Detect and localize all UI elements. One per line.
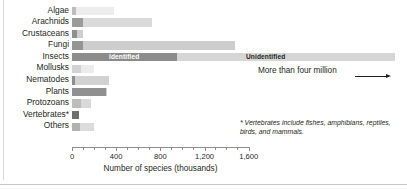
table-row: Plants (0, 86, 407, 98)
table-row: Mollusks (0, 63, 407, 75)
axis-tick-major (160, 147, 161, 151)
axis-tick-minor (149, 147, 150, 150)
bar-segment-identified (72, 123, 80, 131)
species-bar-chart: Algae Arachnids Crustaceans Fungi (0, 0, 407, 189)
x-axis-title: Number of species (thousands) (72, 164, 249, 173)
axis-tick-label: 400 (110, 152, 123, 161)
axis-tick-minor (83, 147, 84, 150)
axis-tick-minor (127, 147, 128, 150)
bar-segment-unidentified (177, 53, 395, 61)
table-row: Algae (0, 5, 407, 17)
category-label-insects: Insects (0, 51, 69, 63)
bar-segment-unidentified (77, 30, 83, 38)
legend-label-unidentified: Unidentified (246, 53, 285, 61)
axis-tick-minor (94, 147, 95, 150)
table-row: Protozoans (0, 98, 407, 110)
bar-segment-unidentified (83, 18, 152, 26)
axis-tick-minor (138, 147, 139, 150)
axis-tick-major (72, 147, 73, 151)
bar-segment-unidentified (75, 76, 109, 84)
annotation-more-than-four-million: More than four million (258, 66, 337, 75)
axis-tick-label: 1,200 (195, 152, 214, 161)
axis-tick-major (205, 147, 206, 151)
bar-segment-identified (72, 65, 81, 73)
axis-tick-minor (237, 147, 238, 150)
axis-tick-label: 1,600 (239, 152, 258, 161)
bar-insects: Identified Unidentified (72, 53, 395, 61)
category-label-mollusks: Mollusks (0, 62, 69, 74)
bar-rows: Algae Arachnids Crustaceans Fungi (0, 5, 407, 133)
category-label-others: Others (0, 120, 69, 132)
bar-segment-identified (72, 99, 81, 107)
category-label-fungi: Fungi (0, 39, 69, 51)
axis-tick-label: 0 (70, 152, 74, 161)
legend-label-identified: Identified (109, 53, 139, 61)
axis-tick-minor (226, 147, 227, 150)
axis-tick-major (116, 147, 117, 151)
category-label-arachnids: Arachnids (0, 16, 69, 28)
category-label-nematodes: Nematodes (0, 74, 69, 86)
table-row: Crustaceans (0, 28, 407, 40)
category-label-crustaceans: Crustaceans (0, 28, 69, 40)
category-label-plants: Plants (0, 86, 69, 98)
category-label-vertebrates: Vertebrates* (0, 109, 69, 121)
table-row: Nematodes (0, 75, 407, 87)
axis-tick-label: 800 (154, 152, 167, 161)
axis-tick-major (249, 147, 250, 151)
bar-segment-unidentified (106, 88, 107, 96)
table-row: Insects Identified Unidentified (0, 51, 407, 63)
table-row: Arachnids (0, 17, 407, 29)
bar-segment-unidentified (76, 7, 113, 15)
bar-segment-identified (72, 41, 83, 49)
axis-tick-minor (182, 147, 183, 150)
table-row: Fungi (0, 40, 407, 52)
bar-segment-identified (72, 18, 83, 26)
bar-segment-unidentified (81, 99, 91, 107)
bar-segment-identified (72, 111, 79, 119)
bar-segment-unidentified (83, 41, 235, 49)
axis-tick-minor (105, 147, 106, 150)
axis-tick-minor (215, 147, 216, 150)
footnote-vertebrates: * Vertebrates include fishes, amphibians… (240, 118, 405, 136)
bar-segment-unidentified (81, 65, 94, 73)
bar-segment-unidentified (80, 123, 94, 131)
category-label-protozoans: Protozoans (0, 97, 69, 109)
axis-tick-minor (193, 147, 194, 150)
bottom-divider (0, 184, 407, 185)
axis-tick-minor (171, 147, 172, 150)
arrow-icon (355, 74, 393, 79)
bar-segment-identified (72, 88, 106, 96)
x-axis: 0 400 800 1,200 1,600 (72, 147, 249, 148)
category-label-algae: Algae (0, 5, 69, 17)
